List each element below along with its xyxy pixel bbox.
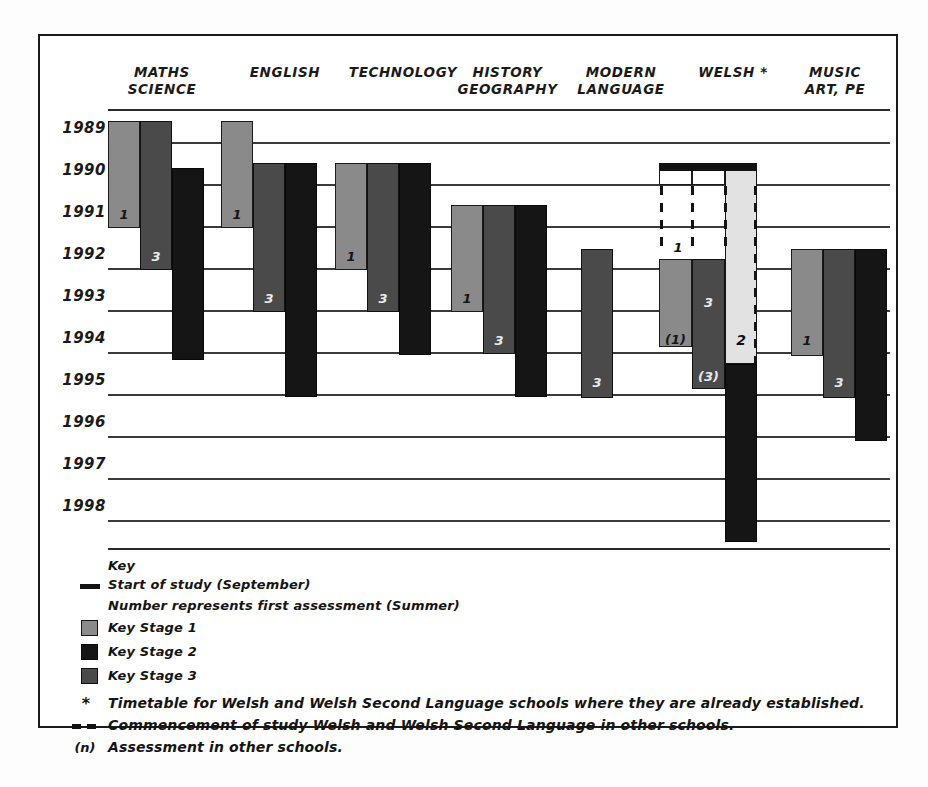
assessment-label-modern-language-ks3: 3: [581, 376, 613, 389]
year-label-1995: 1995: [38, 371, 106, 389]
key-label-key-stage-1: Key Stage 1: [108, 620, 197, 635]
year-label-1998: 1998: [38, 497, 106, 515]
key-label-key-stage-2: Key Stage 2: [108, 644, 197, 659]
bar-maths-science-ks2: [172, 168, 204, 360]
assessment-label-history-geography-ks3: 3: [483, 334, 515, 347]
year-label-1992: 1992: [38, 245, 106, 263]
key-swatch-key-stage-3: [81, 668, 98, 684]
key-label-dash-note: Commencement of study Welsh and Welsh Se…: [108, 717, 735, 733]
bar-history-geography-ks3: [483, 205, 515, 354]
welsh-dashed-line-2: [691, 186, 694, 254]
year-label-1991: 1991: [38, 203, 106, 221]
welsh-start-of-study-cap: [659, 163, 757, 171]
bar-technology-ks2: [399, 163, 431, 355]
header-separator-rule: [108, 109, 890, 111]
year-label-1994: 1994: [38, 329, 106, 347]
assessment-label-welsh-ks3: (3): [692, 370, 725, 383]
assessment-label-music-art-pe-ks3: 3: [823, 376, 855, 389]
assessment-label-maths-science-ks3: 3: [140, 250, 172, 263]
key-marker-n: (n): [70, 740, 100, 755]
key-label-n-note: Assessment in other schools.: [108, 739, 343, 755]
bar-history-geography-ks2: [515, 205, 547, 397]
assessment-label-welsh-ks2: 2: [725, 333, 757, 347]
assessment-label-maths-science-ks1: 1: [108, 208, 140, 221]
key-swatch-start-of-study: [80, 584, 100, 589]
year-label-1993: 1993: [38, 287, 106, 305]
figure-root: MATHS SCIENCE ENGLISH TECHNOLOGY HISTORY…: [0, 0, 928, 787]
column-header-history-geography: HISTORY GEOGRAPHY: [445, 64, 570, 98]
assessment-label-welsh-ks3-pre: 3: [692, 296, 725, 309]
key-title: Key: [108, 558, 135, 573]
key-label-number-note: Number represents first assessment (Summ…: [108, 598, 460, 613]
key-label-key-stage-3: Key Stage 3: [108, 668, 197, 683]
key-marker-asterisk: *: [74, 694, 98, 713]
welsh-dashed-line-3: [724, 186, 727, 254]
figure-frame: MATHS SCIENCE ENGLISH TECHNOLOGY HISTORY…: [38, 34, 898, 728]
assessment-label-technology-ks1: 1: [335, 250, 367, 263]
gridline-1998: [108, 520, 890, 522]
welsh-ks1-outline: [659, 171, 692, 185]
assessment-label-english-ks1: 1: [221, 208, 253, 221]
gridline-1997: [108, 478, 890, 480]
year-label-1990: 1990: [38, 161, 106, 179]
bar-english-ks2: [285, 163, 317, 397]
gridline-1996: [108, 436, 890, 438]
key-label-start-of-study: Start of study (September): [108, 577, 311, 592]
column-header-modern-language: MODERN LANGUAGE: [561, 64, 681, 98]
bar-english-ks3: [253, 163, 285, 312]
key-separator-rule: [108, 548, 890, 550]
assessment-label-technology-ks3: 3: [367, 292, 399, 305]
bar-music-art-pe-ks2: [855, 249, 887, 441]
column-header-maths-science: MATHS SCIENCE: [102, 64, 222, 98]
key-swatch-dashed-commencement: [72, 724, 100, 729]
assessment-label-english-ks3: 3: [253, 292, 285, 305]
assessment-label-welsh-ks1: (1): [659, 333, 692, 346]
bar-technology-ks3: [367, 163, 399, 312]
welsh-ks3-outline: [692, 171, 725, 185]
column-header-english: ENGLISH: [225, 64, 345, 81]
year-label-1997: 1997: [38, 455, 106, 473]
welsh-dashed-line-1: [660, 186, 663, 254]
bar-welsh-ks2: [725, 364, 757, 542]
welsh-dashed-assessment-label: 1: [666, 241, 690, 254]
key-swatch-key-stage-2: [81, 644, 98, 660]
key-swatch-key-stage-1: [81, 620, 98, 636]
column-header-welsh: WELSH *: [678, 64, 788, 81]
assessment-label-history-geography-ks1: 1: [451, 292, 483, 305]
assessment-label-music-art-pe-ks1: 1: [791, 334, 823, 347]
key-label-star-note: Timetable for Welsh and Welsh Second Lan…: [108, 695, 865, 711]
gridline-1995: [108, 394, 890, 396]
year-label-1989: 1989: [38, 119, 106, 137]
bar-maths-science-ks3: [140, 121, 172, 270]
column-header-music-art-pe: MUSIC ART, PE: [780, 64, 890, 98]
year-label-1996: 1996: [38, 413, 106, 431]
